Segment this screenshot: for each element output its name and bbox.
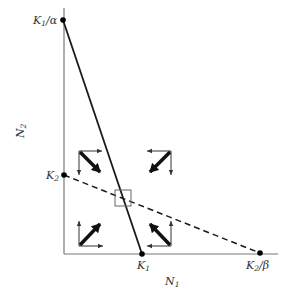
label-k2: K2 bbox=[45, 169, 59, 183]
label-k2-over-beta: K2/β bbox=[245, 259, 269, 273]
phase-plane-diagram: K1/α K2 K1 K2/β N1 N2 bbox=[0, 0, 294, 300]
thick-arrow-up-left-icon bbox=[150, 224, 170, 245]
vector-group-lower-left bbox=[79, 221, 103, 246]
y-axis-label: N2 bbox=[14, 123, 28, 139]
point-k2-over-beta bbox=[257, 250, 263, 256]
point-k2 bbox=[61, 172, 67, 178]
thick-arrow-up-right-icon bbox=[80, 224, 100, 245]
label-k1-over-alpha: K1/α bbox=[32, 14, 58, 28]
point-k1 bbox=[139, 251, 145, 257]
label-k1: K1 bbox=[136, 259, 150, 273]
vector-group-lower-right bbox=[147, 221, 171, 246]
vector-group-upper-right bbox=[147, 151, 171, 175]
x-axis-label: N1 bbox=[164, 275, 179, 289]
vector-group-upper-left bbox=[79, 151, 102, 175]
point-k1-over-alpha bbox=[60, 17, 66, 23]
species-1-isocline bbox=[63, 20, 142, 254]
thick-arrow-down-right-icon bbox=[80, 152, 100, 172]
thick-arrow-down-left-icon bbox=[150, 152, 170, 172]
species-2-isocline bbox=[64, 175, 260, 253]
